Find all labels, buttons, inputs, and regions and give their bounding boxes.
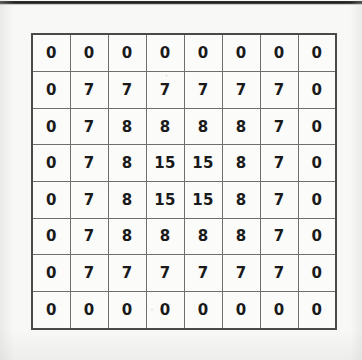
matrix-row: 07888870 xyxy=(32,108,336,145)
matrix-cell: 7 xyxy=(70,72,108,109)
matrix-cell: 8 xyxy=(222,145,260,182)
matrix-cell: 0 xyxy=(298,181,336,218)
matrix-cell: 7 xyxy=(260,72,298,109)
matrix-cell: 0 xyxy=(184,291,222,329)
matrix-row: 0781515870 xyxy=(32,181,336,218)
matrix-cell: 7 xyxy=(70,218,108,255)
numeric-matrix-table: 0000000007777770078888700781515870078151… xyxy=(31,33,337,330)
matrix-cell: 8 xyxy=(146,218,184,255)
matrix-cell: 7 xyxy=(260,108,298,145)
matrix-cell: 7 xyxy=(184,255,222,292)
matrix-row: 07777770 xyxy=(32,255,336,292)
matrix-row: 07888870 xyxy=(32,218,336,255)
matrix-cell: 8 xyxy=(108,181,146,218)
matrix-row: 00000000 xyxy=(32,291,336,329)
matrix-cell: 0 xyxy=(108,34,146,72)
matrix-cell: 0 xyxy=(298,255,336,292)
matrix-cell: 0 xyxy=(260,34,298,72)
matrix-cell: 8 xyxy=(222,218,260,255)
matrix-cell: 7 xyxy=(146,72,184,109)
matrix-cell: 0 xyxy=(184,34,222,72)
matrix-cell: 0 xyxy=(222,291,260,329)
matrix-cell: 7 xyxy=(260,145,298,182)
matrix-cell: 0 xyxy=(32,218,70,255)
matrix-cell: 7 xyxy=(260,218,298,255)
matrix-cell: 0 xyxy=(298,108,336,145)
matrix-cell: 8 xyxy=(222,108,260,145)
matrix-cell: 15 xyxy=(184,145,222,182)
matrix-cell: 7 xyxy=(184,72,222,109)
matrix-cell: 8 xyxy=(146,108,184,145)
matrix-row: 0781515870 xyxy=(32,145,336,182)
matrix-cell: 7 xyxy=(70,181,108,218)
matrix-cell: 7 xyxy=(260,255,298,292)
matrix-cell: 7 xyxy=(70,108,108,145)
matrix-cell: 8 xyxy=(108,145,146,182)
matrix-row: 00000000 xyxy=(32,34,336,72)
matrix-cell: 15 xyxy=(146,145,184,182)
matrix-cell: 0 xyxy=(298,291,336,329)
matrix-cell: 0 xyxy=(298,72,336,109)
matrix-cell: 7 xyxy=(222,72,260,109)
matrix-container: 0000000007777770078888700781515870078151… xyxy=(31,33,337,330)
matrix-cell: 0 xyxy=(32,72,70,109)
matrix-cell: 15 xyxy=(146,181,184,218)
matrix-cell: 0 xyxy=(146,291,184,329)
matrix-row: 07777770 xyxy=(32,72,336,109)
matrix-cell: 0 xyxy=(32,181,70,218)
matrix-cell: 7 xyxy=(260,181,298,218)
matrix-cell: 8 xyxy=(108,108,146,145)
matrix-cell: 0 xyxy=(222,34,260,72)
matrix-cell: 0 xyxy=(146,34,184,72)
matrix-cell: 8 xyxy=(222,181,260,218)
matrix-cell: 0 xyxy=(32,255,70,292)
scanned-page: 0000000007777770078888700781515870078151… xyxy=(0,0,362,360)
matrix-cell: 7 xyxy=(70,145,108,182)
matrix-cell: 0 xyxy=(260,291,298,329)
matrix-cell: 8 xyxy=(108,218,146,255)
top-rule-shadow xyxy=(0,4,362,5)
matrix-cell: 7 xyxy=(222,255,260,292)
matrix-cell: 0 xyxy=(32,108,70,145)
matrix-cell: 0 xyxy=(298,145,336,182)
matrix-body: 0000000007777770078888700781515870078151… xyxy=(32,34,336,329)
matrix-cell: 0 xyxy=(298,34,336,72)
matrix-cell: 0 xyxy=(32,291,70,329)
matrix-cell: 0 xyxy=(70,34,108,72)
matrix-cell: 7 xyxy=(108,255,146,292)
matrix-cell: 0 xyxy=(32,34,70,72)
matrix-cell: 0 xyxy=(298,218,336,255)
matrix-cell: 15 xyxy=(184,181,222,218)
matrix-cell: 0 xyxy=(32,145,70,182)
matrix-cell: 7 xyxy=(70,255,108,292)
matrix-cell: 7 xyxy=(146,255,184,292)
matrix-cell: 0 xyxy=(108,291,146,329)
matrix-cell: 0 xyxy=(70,291,108,329)
matrix-cell: 8 xyxy=(184,218,222,255)
matrix-cell: 7 xyxy=(108,72,146,109)
matrix-cell: 8 xyxy=(184,108,222,145)
